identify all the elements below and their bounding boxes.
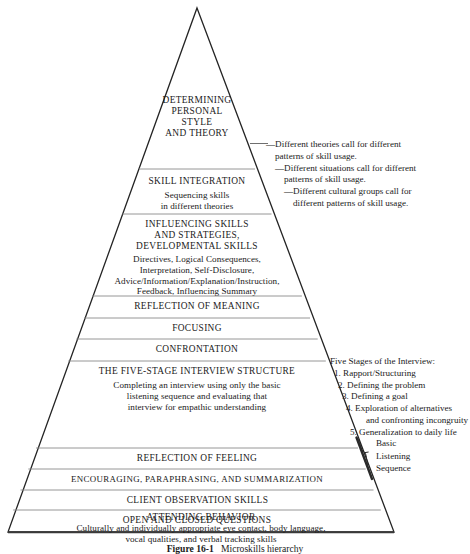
bls-line: Sequence [376, 462, 411, 475]
figure-caption: Figure 16-1 Microskills hierarchy [0, 543, 470, 554]
attending-behavior-block: ATTENDING BEHAVIOR Culturally and indivi… [4, 512, 398, 545]
annotation-line: —Different situations call for different [266, 163, 416, 175]
band-encouraging-paraphrasing-summarization: ENCOURAGING, PARAPHRASING, AND SUMMARIZA… [28, 474, 366, 485]
annotation-line: —Different theories call for different [266, 139, 416, 151]
annotation-line: patterns of skill usage. [266, 151, 416, 163]
figure-caption-label: Figure 16-1 [167, 543, 214, 554]
level-detail-line: Sequencing skills [107, 190, 287, 201]
level-heading-line: AND THEORY [117, 128, 277, 139]
level-heading-line: REFLECTION OF FEELING [36, 453, 358, 464]
band-skill-integration: SKILL INTEGRATION Sequencing skills in d… [107, 176, 287, 212]
level-heading-line: REFLECTION OF MEANING [92, 301, 302, 312]
level-heading-line: THE FIVE-STAGE INTERVIEW STRUCTURE [50, 366, 344, 377]
level-detail-line: Feedback, Influencing Summary [62, 286, 332, 297]
band-five-stage-interview-structure: THE FIVE-STAGE INTERVIEW STRUCTURE Compl… [50, 366, 344, 412]
five-stages-item: 2. Defining the problem [330, 380, 468, 392]
level-detail-line: Interpretation, Self-Disclosure, [62, 265, 332, 276]
five-stages-item: 3. Defining a goal [330, 391, 468, 403]
level-detail-line: Culturally and individually appropriate … [4, 523, 398, 534]
level-heading-line: FOCUSING [84, 323, 310, 334]
bls-line: Listening [376, 450, 411, 463]
five-stages-item: 4. Exploration of alternatives [330, 403, 468, 415]
level-heading-line: CONFRONTATION [76, 344, 318, 355]
five-stages-item: and confronting incongruity [330, 415, 468, 427]
band-confrontation: CONFRONTATION [76, 344, 318, 355]
five-stages-title: Five Stages of the Interview: [330, 356, 468, 368]
level-heading-line: PERSONAL [117, 106, 277, 117]
band-reflection-of-meaning: REFLECTION OF MEANING [92, 301, 302, 312]
level-detail-line: Advice/Information/Explanation/Instructi… [62, 276, 332, 287]
figure-microskills-hierarchy: DETERMINING PERSONAL STYLE AND THEORY SK… [0, 0, 470, 554]
annotation-theory-notes: —Different theories call for different p… [266, 139, 416, 210]
figure-caption-text: Microskills hierarchy [221, 543, 303, 554]
band-determining-personal-style-and-theory: DETERMINING PERSONAL STYLE AND THEORY [117, 95, 277, 139]
level-detail-line: Completing an interview using only the b… [50, 380, 344, 391]
annotation-line: patterns of skill usage. [266, 174, 416, 186]
annotation-basic-listening-sequence: Basic Listening Sequence [376, 437, 411, 475]
level-heading-line: SKILL INTEGRATION [107, 176, 287, 187]
level-detail-line: Directives, Logical Consequences, [62, 254, 332, 265]
level-detail-line: listening sequence and evaluating that [50, 391, 344, 402]
level-detail-line: interview for empathic understanding [50, 402, 344, 413]
annotation-line: —Different cultural groups call for [266, 186, 416, 198]
level-heading-line: DETERMINING [117, 95, 277, 106]
level-heading-line: ENCOURAGING, PARAPHRASING, AND SUMMARIZA… [28, 474, 366, 485]
bls-line: Basic [376, 437, 411, 450]
five-stages-item: 1. Rapport/Structuring [330, 368, 468, 380]
level-heading-line: STYLE [117, 117, 277, 128]
level-detail-line: in different theories [107, 201, 287, 212]
level-heading-line: ATTENDING BEHAVIOR [4, 512, 398, 523]
band-influencing-skills-and-strategies: INFLUENCING SKILLS AND STRATEGIES, DEVEL… [62, 219, 332, 297]
annotation-line: different patterns of skill usage. [266, 198, 416, 210]
level-heading-line: DEVELOPMENTAL SKILLS [62, 241, 332, 252]
annotation-five-stages: Five Stages of the Interview: 1. Rapport… [330, 356, 468, 439]
level-heading-line: AND STRATEGIES, [62, 230, 332, 241]
band-focusing: FOCUSING [84, 323, 310, 334]
band-reflection-of-feeling: REFLECTION OF FEELING [36, 453, 358, 464]
level-heading-line: INFLUENCING SKILLS [62, 219, 332, 230]
